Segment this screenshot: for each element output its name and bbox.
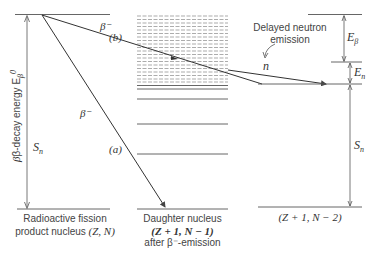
beta-transition-a: [42, 15, 165, 207]
daughter-nucleus-label: Daughter nucleus (Z + 1, N − 1) after β⁻…: [130, 213, 235, 249]
parent-levels: [15, 15, 110, 210]
parent-nucleus-label: Radioactive fission product nucleus (Z, …: [10, 213, 120, 238]
daughter-levels: [137, 86, 228, 210]
sn-right-label: Sn: [354, 139, 364, 156]
neutron-transition: [228, 70, 326, 84]
final-nucleus-label: (Z + 1, N − 2): [258, 211, 362, 223]
delayed-neutron-label: Delayed neutron emission: [250, 22, 330, 46]
e-n-label: En: [354, 66, 365, 83]
transition-a-label: (a): [109, 143, 122, 155]
beta-transition-b: [42, 15, 262, 84]
beta-a-label: β⁻: [80, 107, 91, 119]
sn-left-label: Sn: [33, 141, 43, 158]
neutron-label: n: [263, 60, 269, 72]
left-axis-label: ββ-decay energy Eβ0: [9, 70, 25, 162]
e-beta-label: Eβ: [347, 31, 358, 48]
transition-b-label: (b): [109, 31, 122, 43]
